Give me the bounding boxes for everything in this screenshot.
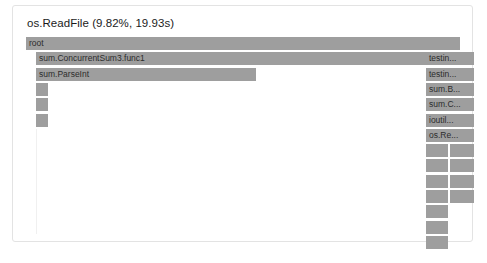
flamegraph-frame[interactable]: root — [26, 37, 460, 50]
flamegraph-frame[interactable]: os.Re... — [426, 129, 474, 142]
flamegraph-frame-unlabeled[interactable] — [36, 98, 48, 111]
flamegraph-frame[interactable]: ioutil... — [426, 114, 474, 127]
flamegraph-frame-unlabeled[interactable] — [426, 221, 448, 234]
flamegraph-frame-unlabeled[interactable] — [426, 205, 448, 218]
flamegraph-frame[interactable]: testin... — [426, 52, 474, 65]
flamegraph-frame-label: sum.ConcurrentSum3.func1 — [36, 52, 426, 64]
flamegraph-frame-label: sum.C... — [426, 98, 474, 110]
flamegraph-frame-unlabeled[interactable] — [450, 175, 474, 188]
flamegraph-frame-unlabeled[interactable] — [426, 144, 448, 157]
flamegraph-frame[interactable]: sum.ConcurrentSum3.func1 — [36, 52, 426, 65]
flamegraph-frame-label: sum.B... — [426, 83, 474, 95]
flamegraph-frame-unlabeled[interactable] — [36, 114, 48, 127]
flamegraph-frame[interactable]: sum.B... — [426, 83, 474, 96]
flamegraph-frame-unlabeled[interactable] — [426, 175, 448, 188]
flamegraph-frame-label: root — [26, 37, 460, 49]
flamegraph-frame-unlabeled[interactable] — [426, 236, 448, 249]
flamegraph-frame[interactable]: sum.C... — [426, 98, 474, 111]
flamegraph-frame-unlabeled[interactable] — [426, 159, 448, 172]
flamegraph-frame-label: os.Re... — [426, 129, 474, 141]
flamegraph-frame[interactable]: sum.ParseInt — [36, 68, 256, 81]
flamegraph-frame-unlabeled[interactable] — [450, 190, 474, 203]
flamegraph-frame-unlabeled[interactable] — [450, 144, 474, 157]
flamegraph-frame-unlabeled[interactable] — [450, 159, 474, 172]
flamegraph-frame-label: testin... — [426, 68, 474, 80]
flamegraph-frame-unlabeled[interactable] — [36, 83, 48, 96]
flamegraph-card: os.ReadFile (9.82%, 19.93s) rootsum.Conc… — [12, 5, 473, 242]
flamegraph-frame-label: testin... — [426, 52, 474, 64]
flamegraph-frame-unlabeled[interactable] — [426, 190, 448, 203]
flamegraph-frame-label: ioutil... — [426, 114, 474, 126]
flamegraph-spine — [36, 129, 37, 234]
page-title: os.ReadFile (9.82%, 19.93s) — [27, 17, 174, 29]
flamegraph-frame[interactable]: testin... — [426, 68, 474, 81]
flamegraph-frame-label: sum.ParseInt — [36, 68, 256, 80]
flamegraph-canvas[interactable]: rootsum.ConcurrentSum3.func1sum.ParseInt… — [26, 37, 460, 235]
